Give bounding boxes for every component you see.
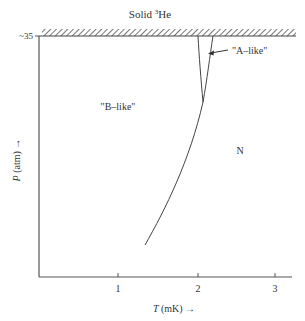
x-tick-label-2: 2 bbox=[196, 283, 201, 294]
phase-diagram: Solid 3He ~35 1 2 3 T (mK) → P (atm) → "… bbox=[0, 0, 305, 321]
x-axis-label: T (mK) → bbox=[153, 303, 195, 315]
a-like-label: "A–like" bbox=[232, 45, 267, 56]
y-tick-label: ~35 bbox=[19, 31, 33, 41]
y-axis-label: P (atm) → bbox=[11, 139, 23, 183]
phase-diagram-svg: Solid 3He ~35 1 2 3 T (mK) → P (atm) → "… bbox=[0, 0, 305, 321]
b-like-label: "B–like" bbox=[101, 101, 136, 112]
bn-phase-boundary bbox=[145, 36, 213, 245]
solid-phase-hatching bbox=[42, 29, 296, 36]
diagram-title: Solid 3He bbox=[129, 8, 171, 20]
normal-phase-label: N bbox=[236, 145, 243, 156]
x-tick-label-1: 1 bbox=[116, 283, 121, 294]
x-tick-label-3: 3 bbox=[273, 283, 278, 294]
ab-phase-boundary bbox=[198, 36, 203, 102]
